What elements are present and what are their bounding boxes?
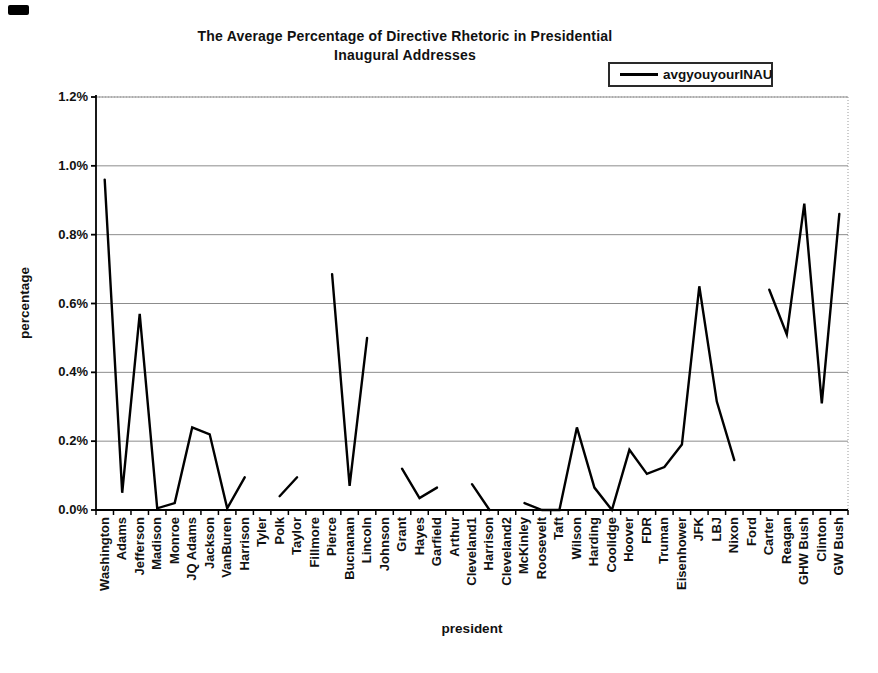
x-tick-label: Coolidge <box>605 517 619 573</box>
y-tick-label: 0.8% <box>36 228 88 242</box>
x-tick-label: Lincoln <box>360 517 374 563</box>
x-tick-label: JQ Adams <box>185 517 199 581</box>
series-line-segment <box>472 484 490 510</box>
y-axis-title: percentage <box>17 267 32 339</box>
x-tick-label: Fillmore <box>308 517 322 568</box>
x-tick-label: Grant <box>395 517 409 552</box>
x-tick-label: Garfield <box>430 517 444 566</box>
x-tick-label: Jackson <box>203 517 217 569</box>
x-tick-label: Harding <box>587 517 601 566</box>
x-tick-label: Cleveland1 <box>465 517 479 586</box>
y-tick-label: 0.4% <box>36 365 88 379</box>
x-tick-label: LBJ <box>710 517 724 542</box>
x-tick-label: Madison <box>150 517 164 570</box>
x-tick-label: VanBuren <box>220 517 234 578</box>
x-tick-label: FDR <box>640 517 654 544</box>
x-tick-label: Nixon <box>727 517 741 553</box>
y-tick-label: 0.0% <box>36 503 88 517</box>
x-tick-label: Wilson <box>570 517 584 560</box>
chart-page: The Average Percentage of Directive Rhet… <box>0 0 878 673</box>
y-tick-label: 1.0% <box>36 159 88 173</box>
x-tick-label: Hayes <box>413 517 427 555</box>
series-line-segment <box>402 469 437 498</box>
x-tick-label: Hoover <box>622 517 636 562</box>
x-tick-label: GHW Bush <box>797 517 811 585</box>
x-tick-label: Jefferson <box>133 517 147 576</box>
x-tick-label: Adams <box>115 517 129 560</box>
x-tick-label: Pierce <box>325 517 339 556</box>
x-tick-label: Eisenhower <box>675 517 689 590</box>
x-tick-label: Taylor <box>290 517 304 555</box>
x-tick-label: Cleveland2 <box>500 517 514 586</box>
y-tick-label: 1.2% <box>36 90 88 104</box>
x-tick-label: Roosevelt <box>535 517 549 579</box>
x-tick-label: Monroe <box>168 517 182 564</box>
x-tick-label: Ford <box>745 517 759 546</box>
x-tick-label: Truman <box>657 517 671 564</box>
x-tick-label: Harrison <box>482 517 496 570</box>
x-tick-label: Reagan <box>780 517 794 564</box>
x-tick-label: Carter <box>762 517 776 555</box>
x-tick-label: Polk <box>273 517 287 544</box>
x-tick-label: Arthur <box>448 517 462 557</box>
series-line-segment <box>332 274 367 486</box>
x-tick-label: Tyler <box>255 517 269 547</box>
x-tick-label: Taft <box>552 517 566 540</box>
x-tick-label: McKinley <box>517 517 531 574</box>
series-line-segment <box>105 180 245 509</box>
x-tick-label: Harrison <box>238 517 252 570</box>
x-tick-label: Clinton <box>815 517 829 562</box>
x-tick-label: Bucnanan <box>343 517 357 580</box>
x-tick-label: GW Bush <box>832 517 846 576</box>
series-line-segment <box>525 286 735 510</box>
x-tick-label: Washington <box>98 517 112 591</box>
y-tick-label: 0.6% <box>36 297 88 311</box>
series-line-segment <box>280 477 298 496</box>
x-tick-label: Johnson <box>378 517 392 571</box>
y-tick-label: 0.2% <box>36 434 88 448</box>
x-axis-title: president <box>96 621 848 636</box>
x-tick-label: JFK <box>692 517 706 542</box>
